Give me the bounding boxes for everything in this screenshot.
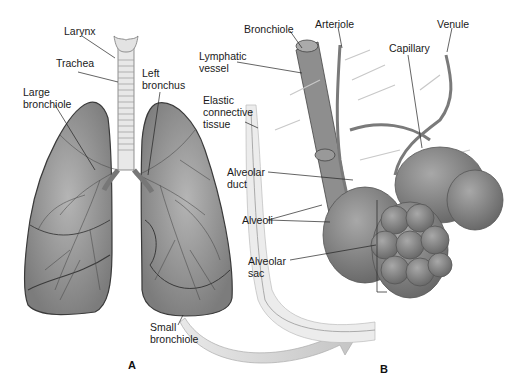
label-lymphatic-vessel: Lymphatic vessel (199, 50, 246, 74)
label-left-bronchus: Left bronchus (142, 67, 185, 91)
panel-letter-a: A (128, 359, 136, 371)
panel-letter-b: B (380, 363, 388, 375)
label-large-bronchiole: Large bronchiole (23, 86, 71, 110)
label-larynx: Larynx (64, 25, 96, 37)
label-arteriole: Arteriole (315, 18, 354, 30)
label-alveolar-sac: Alveolar sac (248, 255, 286, 279)
label-alveolar-duct: Alveolar duct (227, 166, 265, 190)
label-trachea: Trachea (56, 57, 94, 69)
bronchiole-tube (296, 40, 350, 218)
label-bronchiole: Bronchiole (244, 23, 294, 35)
label-venule: Venule (437, 18, 469, 30)
label-alveoli: Alveoli (242, 214, 273, 226)
label-small-bronchiole: Small bronchiole (150, 321, 198, 345)
label-capillary: Capillary (389, 42, 430, 54)
label-elastic-connective-tissue: Elastic connective tissue (203, 94, 253, 130)
